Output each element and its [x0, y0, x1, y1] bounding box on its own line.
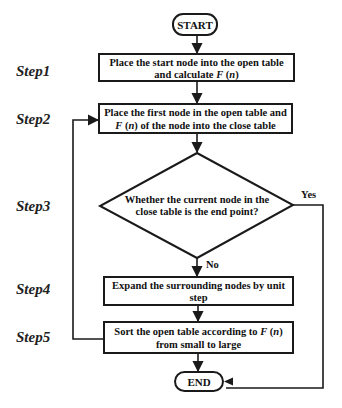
step-label-3: Step3: [16, 198, 51, 214]
flowchart: Step1 Step2 Step3 Step4 Step5 START Plac…: [0, 0, 342, 408]
step5-box: Sort the open table according to F (n) f…: [104, 322, 293, 353]
step-label-1: Step1: [16, 63, 50, 79]
end-label: END: [187, 376, 210, 388]
step2-line2: F (n) of the node into the close table: [114, 120, 276, 132]
step3-line2: close table is the end point?: [136, 206, 259, 217]
step1-box: Place the start node into the open table…: [99, 54, 294, 81]
step2-box: Place the first node in the open table a…: [99, 104, 292, 133]
step-label-2: Step2: [16, 111, 51, 127]
end-terminal: END: [175, 372, 223, 391]
step4-line1: Expand the surrounding nodes by unit: [112, 280, 285, 291]
step5-line1: Sort the open table according to F (n): [114, 326, 283, 338]
step3-decision: Whether the current node in the close ta…: [100, 153, 293, 258]
step4-line2: step: [189, 292, 207, 303]
no-label: No: [206, 259, 219, 270]
step-label-4: Step4: [16, 281, 51, 297]
loop-edge-step5-to-step2: [73, 120, 104, 339]
step5-line2: from small to large: [156, 339, 242, 350]
step1-line1: Place the start node into the open table: [109, 57, 283, 68]
step3-line1: Whether the current node in the: [125, 194, 270, 205]
start-terminal: START: [173, 14, 217, 35]
step4-box: Expand the surrounding nodes by unit ste…: [104, 277, 293, 305]
step1-line2: and calculate F (n): [154, 69, 239, 81]
start-label: START: [177, 19, 213, 31]
step-label-5: Step5: [16, 329, 51, 345]
yes-label: Yes: [301, 189, 316, 200]
yes-arrowhead-into-end: [224, 378, 233, 386]
step2-line1: Place the first node in the open table a…: [104, 107, 287, 118]
